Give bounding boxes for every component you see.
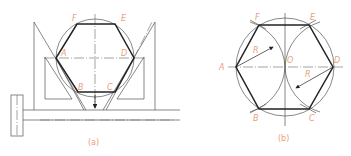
label-a-B: B	[78, 83, 84, 92]
caption-b: (b)	[278, 134, 289, 143]
label-b-A: A	[218, 63, 224, 72]
label-a-D: D	[121, 49, 127, 58]
hexagon-construction-diagram: F E A D B C (a) F E A O D B C R R (b)	[0, 0, 351, 156]
caption-a: (a)	[88, 138, 99, 147]
label-b-B: B	[253, 114, 259, 123]
label-a-C: C	[107, 83, 113, 92]
label-a-E: E	[121, 14, 127, 23]
label-b-D: D	[334, 56, 340, 65]
label-b-C: C	[309, 114, 315, 123]
figure-b	[228, 13, 343, 126]
label-b-O: O	[287, 56, 293, 65]
label-a-A: A	[60, 49, 66, 58]
label-b-R1: R	[253, 46, 259, 55]
label-b-R2: R	[305, 70, 311, 79]
figure-a	[11, 14, 180, 136]
label-a-F: F	[72, 14, 77, 23]
label-b-F: F	[255, 13, 260, 22]
construction-line-d-ext	[134, 22, 152, 58]
